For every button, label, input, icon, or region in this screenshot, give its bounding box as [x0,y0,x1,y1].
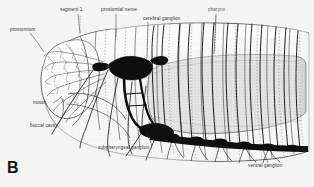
label-segment-1: segment 1 [60,8,83,13]
anatomical-illustration [0,0,314,187]
panel-letter: B [7,160,18,176]
label-subpharyngeal-ganglion: subpharyngeal ganglion [98,146,149,151]
label-ventral-ganglion: ventral ganglion [248,164,282,169]
label-prostomial-nerve: prostomial nerve [101,8,137,13]
figure-panel: prostomium segment 1 prostomial nerve ce… [0,0,314,187]
label-cerebral-ganglion: cerebral ganglion [143,17,180,22]
label-prostomium: prostomium [10,28,35,33]
label-buccal-cavity: buccal cavity [30,124,58,129]
label-pharynx: pharynx [208,8,225,13]
label-mouth: mouth [33,101,46,106]
